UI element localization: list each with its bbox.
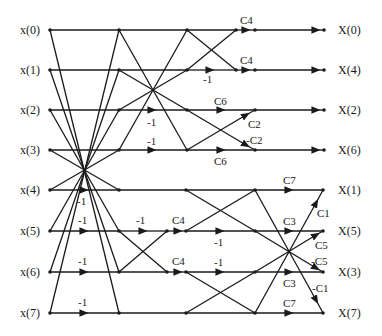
weight-label: -1 — [78, 296, 87, 308]
output-label: X(2) — [338, 103, 361, 117]
input-label: x(6) — [20, 265, 40, 279]
weight-label: -1 — [147, 116, 156, 128]
weight-label: -C5 — [311, 255, 328, 267]
stage1-butterfly: -1 -1 -1 -1 — [50, 30, 119, 313]
output-labels: X(0) X(4) X(2) X(6) X(1) X(5) X(3) X(7) — [338, 23, 361, 320]
weight-label: -1 — [203, 73, 212, 85]
weight-label: C6 — [214, 155, 227, 167]
weight-label: -1 — [78, 214, 87, 226]
input-label: x(1) — [20, 63, 40, 77]
weight-label: C4 — [240, 54, 253, 66]
weight-label: C4 — [240, 14, 253, 26]
weight-label: -1 — [77, 195, 86, 207]
weight-label: C4 — [172, 214, 185, 226]
weight-label: -C1 — [312, 282, 329, 294]
input-label: x(0) — [20, 23, 40, 37]
weight-label: C5 — [315, 239, 328, 251]
input-label: x(2) — [20, 103, 40, 117]
input-label: x(7) — [20, 306, 40, 320]
weight-label: C1 — [317, 207, 330, 219]
weight-label: -1 — [214, 256, 223, 268]
weight-label: C7 — [283, 297, 296, 309]
weight-label: -1 — [136, 214, 145, 226]
weight-label: -1 — [78, 255, 87, 267]
weight-label: C6 — [214, 95, 227, 107]
output-label: X(1) — [338, 183, 361, 197]
output-label: X(7) — [338, 306, 361, 320]
output-label: X(4) — [338, 63, 361, 77]
output-label: X(5) — [338, 224, 361, 238]
stage2-lower-butterfly: -1 -1 C4 C4 — [119, 190, 186, 313]
upper-outputs — [255, 30, 324, 150]
weight-label: C2 — [248, 118, 261, 130]
weight-label: -C2 — [246, 134, 263, 146]
weight-label: C7 — [283, 174, 296, 186]
dct-flow-graph: x(0) x(1) x(2) x(3) x(4) x(5) x(6) x(7) … — [0, 0, 382, 336]
weight-label: C3 — [283, 277, 296, 289]
stage3-upper: C4 -1 C4 C6 C2 -C2 C6 — [187, 14, 263, 167]
stage2-upper-butterfly: -1 -1 — [119, 30, 187, 150]
stage3-lower: -1 -1 — [186, 190, 255, 313]
input-label: x(5) — [20, 224, 40, 238]
weight-label: C4 — [172, 255, 185, 267]
output-label: X(0) — [338, 23, 361, 37]
input-labels: x(0) x(1) x(2) x(3) x(4) x(5) x(6) x(7) — [20, 23, 40, 320]
weight-label: -1 — [147, 135, 156, 147]
output-label: X(6) — [338, 143, 361, 157]
stage4-rotations: C7 C1 C3 C5 -C5 C3 -C1 C7 — [255, 174, 330, 313]
weight-label: -1 — [214, 236, 223, 248]
input-label: x(4) — [20, 183, 40, 197]
output-label: X(3) — [338, 265, 361, 279]
input-label: x(3) — [20, 143, 40, 157]
weight-label: C3 — [283, 215, 296, 227]
